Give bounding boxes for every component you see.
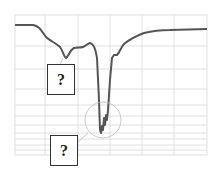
diagram-canvas xyxy=(0,0,219,176)
callout-label: ? xyxy=(60,142,68,160)
callout-label: ? xyxy=(57,71,65,89)
grid xyxy=(15,15,207,155)
leader-line-2 xyxy=(77,133,88,143)
callout-box-shoulder: ? xyxy=(47,64,75,95)
callout-box-trough: ? xyxy=(50,135,78,166)
spectrum-curve xyxy=(15,25,207,133)
